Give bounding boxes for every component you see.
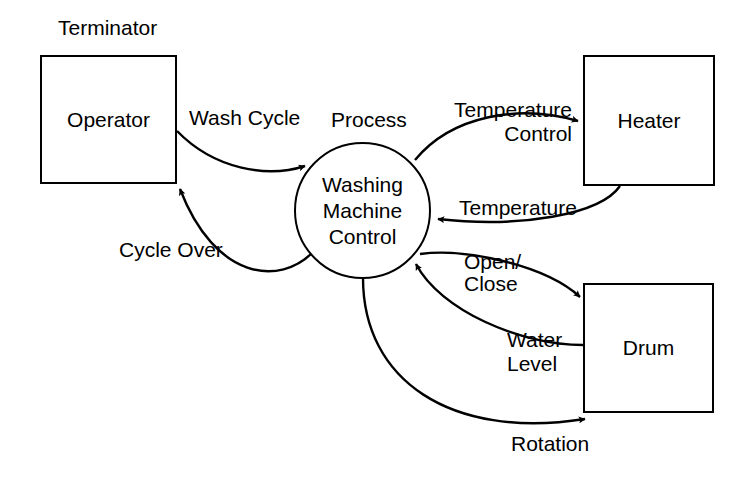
flow-label-cycle-over: Cycle Over [119, 238, 259, 261]
flow-label-open-close-line2: Close [464, 272, 574, 295]
terminator-operator-label: Operator [42, 108, 175, 132]
flow-label-rotation: Rotation [511, 432, 651, 455]
terminator-heater[interactable]: Heater [583, 55, 715, 186]
process-washing-machine-control[interactable]: Washing Machine Control [294, 142, 431, 279]
dataflow-diagram-canvas: Terminator Process Operator Heater Drum … [0, 0, 748, 484]
flow-label-open-close-line1: Open/ [464, 250, 574, 273]
process-washing-machine-control-label: Washing Machine Control [296, 172, 429, 250]
flow-label-temperature-control-line1: Temperature [420, 98, 572, 121]
flow-label-wash-cycle: Wash Cycle [189, 106, 329, 129]
terminator-annotation-label: Terminator [58, 16, 208, 39]
terminator-heater-label: Heater [585, 109, 713, 133]
flow-arrow-wash-cycle [177, 131, 305, 171]
terminator-operator[interactable]: Operator [40, 55, 177, 184]
flow-label-water-level-line1: Water [507, 328, 617, 351]
flow-label-temperature: Temperature [459, 196, 609, 219]
flow-label-temperature-control-line2: Control [420, 122, 572, 145]
flow-label-water-level-line2: Level [507, 352, 617, 375]
